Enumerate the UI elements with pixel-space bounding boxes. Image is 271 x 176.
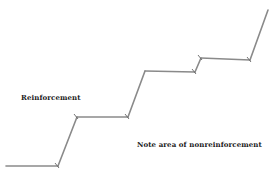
pause-segment <box>145 71 195 72</box>
responding-segment <box>128 71 145 117</box>
cumulative-record-diagram <box>0 0 271 176</box>
nonreinforcement-note-label: Note area of nonreinforcement <box>137 140 262 149</box>
responding-segment <box>58 117 77 166</box>
pause-segment <box>201 58 250 60</box>
responding-segment <box>195 58 201 72</box>
reinforcement-label: Reinforcement <box>21 93 81 102</box>
responding-segment <box>250 10 268 60</box>
